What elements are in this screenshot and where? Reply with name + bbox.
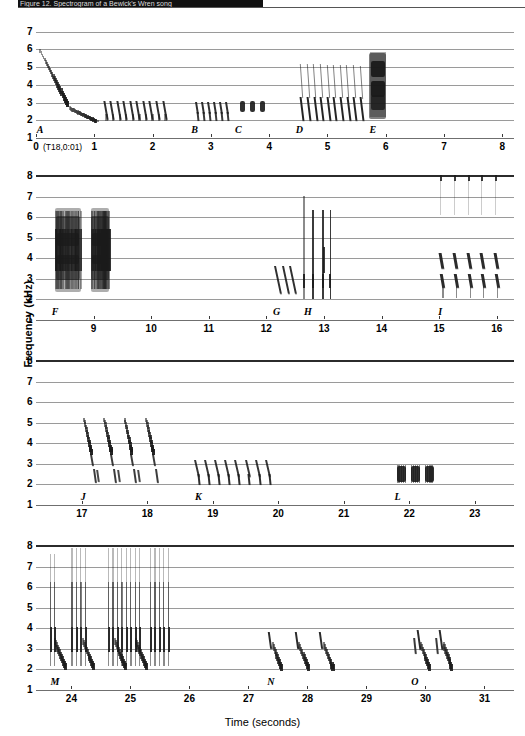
spectrogram-trace: [481, 180, 482, 215]
spectrogram-trace: [64, 663, 67, 670]
spectrogram-trace: [466, 253, 471, 269]
x-tick-1-2: [153, 134, 154, 137]
x-tick-4-30: [425, 686, 426, 689]
spectrogram-trace: [468, 180, 469, 215]
x-tick-label-4-27: 27: [243, 694, 254, 704]
spectrogram-trace: [300, 97, 305, 121]
spectrogram-trace: [326, 65, 330, 98]
x-tick-4-26: [189, 686, 190, 689]
spectrogram-trace: [495, 180, 496, 215]
syllable-label-N: N: [267, 677, 274, 687]
x-tick-1-6: [386, 134, 387, 137]
gridline-1khz: [36, 505, 514, 506]
spectrogram-trace: [413, 638, 417, 654]
spectrogram-trace: [138, 114, 140, 121]
x-tick-2-10: [151, 316, 152, 319]
spectrogram-trace: [405, 465, 406, 484]
x-tick-4-31: [484, 686, 485, 689]
gridline-3khz: [36, 464, 514, 465]
gridline-2khz: [36, 669, 514, 670]
x-tick-2-12: [266, 316, 267, 319]
x-tick-2-11: [209, 316, 210, 319]
spectrogram-trace: [454, 274, 459, 288]
syllable-label-K: K: [195, 492, 202, 502]
spectrogram-trace: [119, 114, 121, 121]
x-tick-label-3-20: 20: [273, 509, 284, 519]
spectrogram-trace: [121, 582, 122, 627]
spectrogram-trace: [168, 651, 170, 666]
spectrogram-trace: [435, 638, 439, 654]
spectrogram-trace: [154, 582, 155, 627]
gridline-7khz: [36, 32, 514, 33]
spectrogram-trace: [112, 582, 113, 627]
x-tick-label-1-1: 1: [92, 142, 98, 152]
spectrogram-trace: [163, 651, 165, 666]
spectrogram-trace: [155, 469, 159, 483]
spectrogram-trace: [340, 97, 345, 121]
spectrogram-trace: [71, 627, 73, 652]
x-tick-label-3-18: 18: [142, 509, 153, 519]
x-tick-label-1-4: 4: [266, 142, 272, 152]
x-tick-1-3: [211, 134, 212, 137]
spectrogram-trace: [340, 65, 344, 98]
gridline-8khz: [36, 360, 514, 362]
spectrogram-trace: [282, 266, 290, 294]
x-tick-label-2-10: 10: [146, 324, 157, 334]
x-tick-label-1-8: 8: [500, 142, 506, 152]
spectrogram-trace: [159, 627, 161, 652]
spectrogram-trace: [353, 97, 358, 121]
spectrogram-trace: [158, 114, 160, 121]
spectrogram-trace: [440, 180, 441, 215]
spectrogram-trace: [497, 287, 499, 298]
x-tick-4-25: [130, 686, 131, 689]
spectrogram-trace: [145, 114, 147, 121]
spectrogram-trace: [439, 253, 444, 269]
x-tick-4-24: [71, 686, 72, 689]
caption-rule: [18, 7, 525, 8]
x-axis-title: Time (seconds): [0, 716, 525, 728]
spectrogram-trace: [130, 582, 131, 627]
x-tick-label-1-3: 3: [208, 142, 214, 152]
spectrogram-trace: [280, 664, 283, 671]
spectrogram-trace: [85, 582, 86, 627]
spectrogram-trace: [307, 64, 311, 98]
spectrogram-trace: [135, 651, 137, 666]
syllable-label-F: F: [52, 307, 59, 317]
spectrogram-trace: [80, 651, 82, 666]
spectrogram-trace: [159, 582, 160, 627]
x-tick-label-4-25: 25: [125, 694, 136, 704]
syllable-label-E: E: [370, 125, 377, 135]
spectrogram-trace: [320, 64, 324, 98]
spectrogram-trace: [359, 66, 362, 99]
spectrogram-trace: [92, 233, 107, 246]
spectrogram-trace: [121, 627, 123, 652]
x-tick-3-20: [278, 501, 279, 504]
spectrogram-trace: [108, 627, 110, 652]
x-tick-1-4: [269, 134, 270, 137]
spectrogram-trace: [333, 65, 337, 98]
spectrogram-trace: [250, 101, 255, 113]
x-tick-label-2-9: 9: [91, 324, 97, 334]
x-tick-label-4-30: 30: [420, 694, 431, 704]
spectrogram-trace: [322, 274, 324, 288]
spectrogram-trace: [480, 253, 485, 269]
spectrogram-trace: [105, 114, 107, 121]
x-tick-label-1-7: 7: [441, 142, 447, 152]
spectrogram-trace: [196, 112, 199, 121]
spectrogram-trace: [130, 651, 132, 666]
spectrogram-trace: [54, 651, 56, 666]
gridline-7khz: [36, 197, 514, 198]
spectrogram-trace: [164, 114, 166, 121]
spectrogram-trace: [209, 112, 212, 121]
gridline-3khz: [36, 103, 514, 104]
spectrogram-trace: [260, 101, 265, 113]
spectrogram-trace: [71, 651, 73, 666]
spectrogram-trace: [76, 627, 78, 652]
spectrogram-trace: [450, 664, 453, 671]
syllable-label-O: O: [411, 677, 418, 687]
spectrogram-trace: [150, 627, 152, 652]
x-tick-label-2-15: 15: [434, 324, 445, 334]
spectrogram-trace: [207, 474, 210, 485]
time-code-annotation: (T18,0:01): [43, 143, 82, 152]
spectrogram-trace: [331, 664, 334, 671]
